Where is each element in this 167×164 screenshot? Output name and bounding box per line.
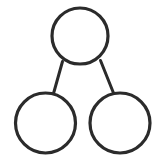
number-bond-diagram bbox=[0, 0, 167, 164]
link-top-to-bottom-left bbox=[54, 62, 63, 94]
diagram-svg bbox=[0, 0, 167, 164]
node-circle-bottom-left[interactable] bbox=[16, 93, 76, 153]
node-circle-top[interactable] bbox=[52, 8, 108, 64]
node-circle-bottom-right[interactable] bbox=[90, 93, 150, 153]
link-top-to-bottom-right bbox=[101, 61, 114, 94]
